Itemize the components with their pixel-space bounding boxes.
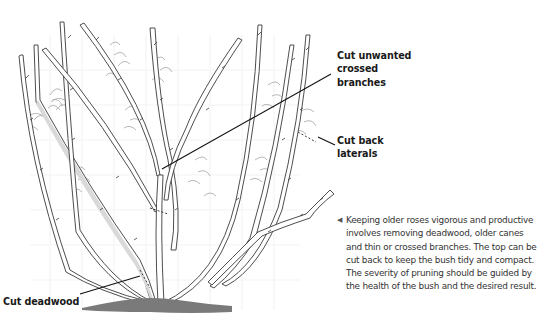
label-line: branches [337, 76, 411, 89]
leader-laterals [318, 137, 335, 145]
caption-line: cut back to keep the bush tidy and compa… [337, 254, 559, 267]
caption-line: the health of the bush and the desired r… [337, 280, 559, 293]
label-line: crossed [337, 62, 411, 75]
caption-line: and thin or crossed branches. The top ca… [337, 241, 559, 254]
label-line: laterals [337, 147, 383, 160]
label-cut-deadwood: Cut deadwood [3, 295, 79, 308]
label-line: Cut deadwood [3, 295, 79, 308]
canes [19, 22, 334, 304]
label-line: Cut unwanted [337, 49, 411, 62]
caption-line: Keeping older roses vigorous and product… [337, 214, 559, 227]
label-cut-back-laterals: Cut back laterals [337, 134, 383, 161]
leader-lines [80, 74, 335, 294]
caption-line: involves removing deadwood, older canes [337, 227, 559, 240]
label-line: Cut back [337, 134, 383, 147]
caption-text: ◀ Keeping older roses vigorous and produ… [337, 214, 559, 294]
left-pointer-icon: ◀ [337, 214, 342, 227]
caption-line: The severity of pruning should be guided… [337, 267, 559, 280]
label-cut-unwanted-crossed-branches: Cut unwanted crossed branches [337, 49, 411, 89]
